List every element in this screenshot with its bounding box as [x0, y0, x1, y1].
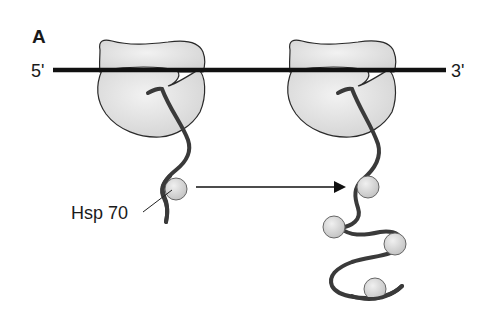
- hsp70-right-3: [384, 233, 406, 255]
- ribosome-right: [288, 40, 396, 137]
- diagram-canvas: [0, 0, 487, 309]
- progression-arrow-icon: [196, 181, 346, 193]
- ribosome-left: [98, 40, 205, 137]
- mrna-3prime-label: 3': [451, 62, 464, 80]
- ribosome-large-subunit-right: [288, 67, 396, 137]
- hsp70-label: Hsp 70: [71, 204, 128, 222]
- hsp70-right-1: [357, 176, 379, 198]
- ribosome-large-subunit-left: [98, 67, 205, 137]
- mrna-5prime-label: 5': [31, 62, 44, 80]
- hsp70-left: [165, 178, 187, 200]
- hsp70-right-2: [323, 216, 345, 238]
- panel-label: A: [32, 27, 46, 46]
